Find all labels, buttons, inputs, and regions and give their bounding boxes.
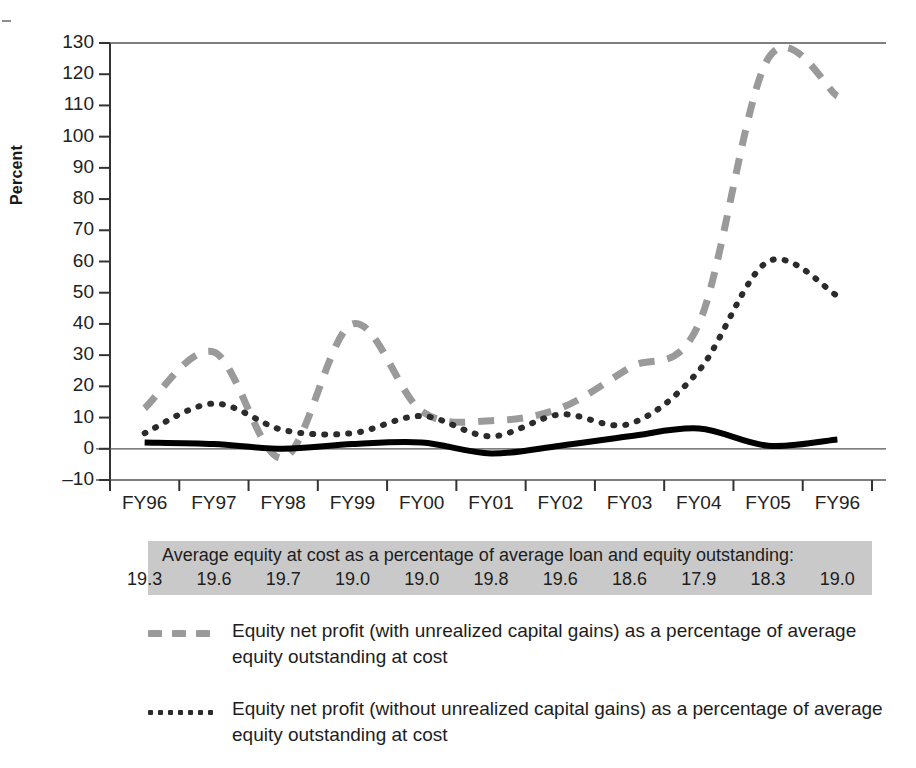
- dashed-line-icon: [148, 630, 216, 638]
- strip-value-1: 19.6: [186, 569, 242, 590]
- legend-label-without-gains: Equity net profit (without unrealized ca…: [232, 696, 892, 748]
- strip-value-6: 19.6: [532, 569, 588, 590]
- legend-label-with-gains: Equity net profit (with unrealized capit…: [232, 618, 892, 670]
- data-strip: Average equity at cost as a percentage o…: [148, 541, 872, 595]
- strip-value-5: 19.8: [463, 569, 519, 590]
- strip-value-2: 19.7: [255, 569, 311, 590]
- figure-container: Percent 1301201101009080706050403020100–…: [0, 0, 916, 768]
- strip-value-0: 19.3: [117, 569, 173, 590]
- chart-svg: [0, 0, 916, 500]
- series-line-2: [145, 428, 838, 453]
- legend-item-with-gains: Equity net profit (with unrealized capit…: [148, 618, 908, 674]
- strip-value-10: 19.0: [809, 569, 865, 590]
- dotted-line-icon: [148, 708, 216, 716]
- strip-value-7: 18.6: [602, 569, 658, 590]
- legend-item-without-gains: Equity net profit (without unrealized ca…: [148, 696, 908, 752]
- crop-corner-mark: [2, 20, 11, 22]
- series-line-0: [145, 47, 838, 458]
- strip-value-4: 19.0: [394, 569, 450, 590]
- data-strip-values: 19.319.619.719.019.019.819.618.617.918.3…: [160, 569, 860, 593]
- strip-value-8: 17.9: [671, 569, 727, 590]
- chart-plot-area: Percent 1301201101009080706050403020100–…: [0, 0, 916, 500]
- data-strip-title: Average equity at cost as a percentage o…: [162, 545, 794, 566]
- series-line-1: [145, 259, 838, 436]
- strip-value-9: 18.3: [740, 569, 796, 590]
- strip-value-3: 19.0: [324, 569, 380, 590]
- chart-legend: Equity net profit (with unrealized capit…: [148, 618, 908, 768]
